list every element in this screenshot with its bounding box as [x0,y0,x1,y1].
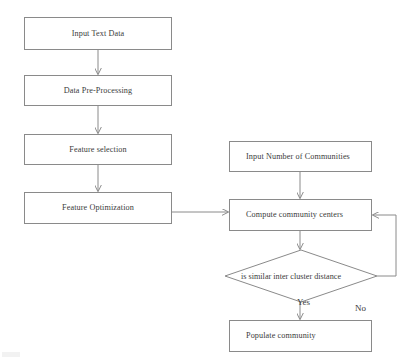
edge-label-no: No [355,303,366,313]
node-label: Populate community [230,331,371,340]
node-label: Input Number of Communities [230,152,371,161]
node-data-pre-processing[interactable]: Data Pre-Processing [24,75,172,106]
node-feature-selection[interactable]: Feature selection [24,134,172,165]
node-label: Feature selection [25,145,171,154]
edge-label-yes: Yes [297,297,310,307]
node-label: Feature Optimization [25,203,171,212]
node-label: Input Text Data [25,29,171,38]
flowchart-connectors [0,0,416,364]
node-input-text-data[interactable]: Input Text Data [24,17,172,50]
node-decision-similar-inter-cluster-distance[interactable]: is similar inter cluster distance [225,250,377,302]
node-label: Compute community centers [230,210,371,219]
node-label: Data Pre-Processing [25,86,171,95]
node-compute-community-centers[interactable]: Compute community centers [229,199,372,231]
scan-artifact [2,352,20,357]
node-feature-optimization[interactable]: Feature Optimization [24,192,172,224]
node-populate-community[interactable]: Populate community [229,320,372,352]
node-label: is similar inter cluster distance [241,272,391,281]
node-input-number-of-communities[interactable]: Input Number of Communities [229,141,372,172]
